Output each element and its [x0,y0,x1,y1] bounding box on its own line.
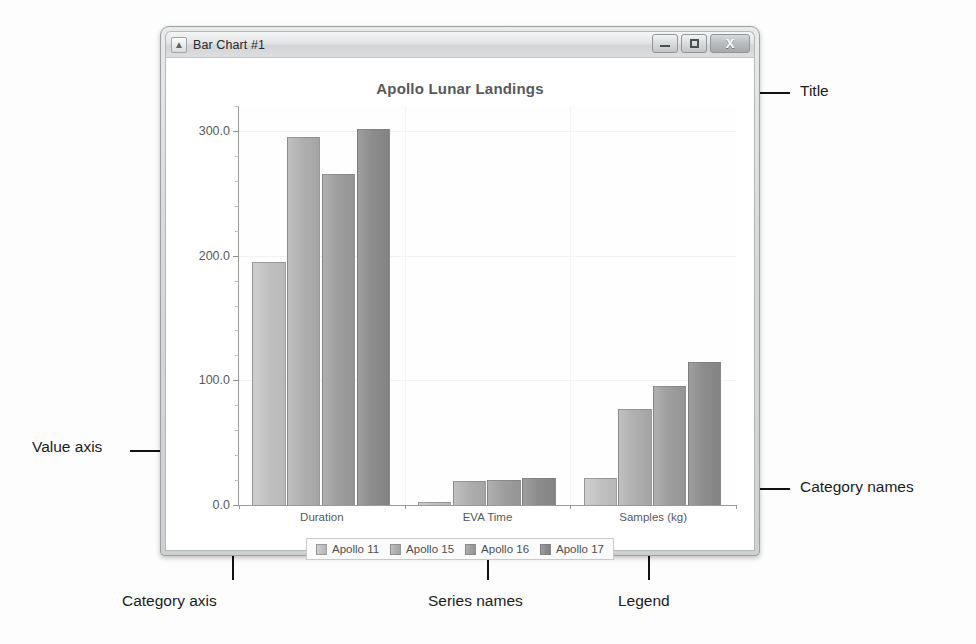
bar[interactable] [287,137,320,505]
bar[interactable] [487,480,520,505]
window-client-area: Apollo Lunar Landings 0.0100.0200.0300.0… [165,57,755,551]
legend-label: Apollo 15 [406,543,454,555]
bar[interactable] [618,409,651,505]
category-axis-label: Duration [239,511,405,523]
bar[interactable] [522,478,555,505]
annotation-value-axis: Value axis [32,438,102,456]
bar[interactable] [653,386,686,505]
legend-label: Apollo 17 [556,543,604,555]
annotation-category-names: Category names [800,478,914,496]
x-axis-tick [239,505,240,509]
bar[interactable] [357,129,390,505]
legend-label: Apollo 11 [332,543,379,555]
close-button[interactable]: X [710,34,750,53]
chart-app-icon: ▲ [171,37,187,53]
minimize-button[interactable] [652,34,678,53]
y-axis-tick-label: 0.0 [213,498,230,512]
annotation-legend: Legend [618,592,670,610]
chart-title: Apollo Lunar Landings [166,80,754,97]
bar[interactable] [453,481,486,505]
application-window: ▲ Bar Chart #1 X Apollo Lunar Landings 0… [160,26,760,556]
legend-swatch [465,544,476,555]
category-group: EVA Time [405,106,571,505]
legend-item[interactable]: Apollo 15 [390,543,454,555]
bar[interactable] [584,478,617,505]
x-axis-tick [736,505,737,509]
y-axis-tick-label: 200.0 [199,249,230,263]
legend-item[interactable]: Apollo 11 [316,543,379,555]
legend-swatch [390,544,401,555]
annotation-category-axis: Category axis [122,592,217,610]
category-group: Duration [239,106,405,505]
annotation-title: Title [800,82,829,100]
category-separator [405,106,406,505]
annotation-series-names: Series names [428,592,523,610]
legend-item[interactable]: Apollo 17 [540,543,604,555]
legend-swatch [540,544,551,555]
bar[interactable] [688,362,721,505]
bar[interactable] [418,502,451,505]
window-title: Bar Chart #1 [193,38,265,52]
legend-swatch [316,544,327,555]
window-titlebar[interactable]: ▲ Bar Chart #1 X [165,31,755,57]
maximize-button[interactable] [681,34,707,53]
chart-legend: Apollo 11Apollo 15Apollo 16Apollo 17 [306,538,614,560]
screenshot-page: Title Category names Value axis Category… [0,0,976,644]
category-axis-label: Samples (kg) [570,511,736,523]
x-axis-tick [405,505,406,509]
bar-chart: Apollo Lunar Landings 0.0100.0200.0300.0… [166,58,754,550]
bar[interactable] [252,262,285,505]
category-separator [570,106,571,505]
legend-label: Apollo 16 [481,543,529,555]
bar[interactable] [322,174,355,505]
legend-item[interactable]: Apollo 16 [465,543,529,555]
x-axis-tick [570,505,571,509]
y-axis-tick-label: 300.0 [199,124,230,138]
plot-area: 0.0100.0200.0300.0DurationEVA TimeSample… [238,106,736,506]
category-axis-label: EVA Time [405,511,571,523]
y-axis-tick-label: 100.0 [199,373,230,387]
window-controls: X [652,34,750,53]
category-group: Samples (kg) [570,106,736,505]
